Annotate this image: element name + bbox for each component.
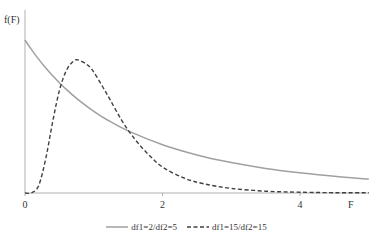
dashed-line-swatch-icon xyxy=(187,224,209,230)
solid-line-swatch-icon xyxy=(106,224,128,230)
x-axis-label: F xyxy=(348,199,354,210)
legend-item-df1-15-df2-15: df1=15/df2=15 xyxy=(187,222,267,232)
f-distribution-chart: 024 f(F) F xyxy=(0,0,373,237)
legend-label: df1=2/df2=5 xyxy=(131,222,177,232)
x-tick-label: 4 xyxy=(298,199,303,210)
x-axis-ticks: 024 xyxy=(23,193,303,210)
x-tick-label: 2 xyxy=(160,199,165,210)
y-axis-label: f(F) xyxy=(4,14,20,26)
legend-label: df1=15/df2=15 xyxy=(212,222,267,232)
legend-item-df1-2-df2-5: df1=2/df2=5 xyxy=(106,222,177,232)
chart-legend: df1=2/df2=5 df1=15/df2=15 xyxy=(0,220,373,234)
x-tick-label: 0 xyxy=(23,199,28,210)
series-df1-2-df2-5-line xyxy=(25,40,369,179)
series-df1-15-df2-15-line xyxy=(25,60,369,194)
